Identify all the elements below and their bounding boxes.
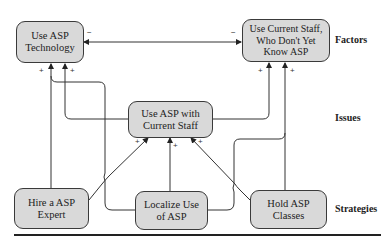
node-label-line: Use ASP with [141, 108, 200, 120]
node-label-line: Use ASP [25, 30, 74, 42]
polarity-plus: + [173, 141, 178, 150]
polarity-minus: − [231, 28, 236, 37]
polarity-plus: + [135, 137, 140, 146]
node-label-line: Technology [25, 42, 74, 54]
polarity-plus: + [258, 66, 263, 75]
tier-label-issues: Issues [335, 112, 361, 123]
node-label-line: Who Don't Yet [250, 35, 323, 47]
edge-hire-to-issue [89, 138, 148, 200]
influence-diagram: Use ASP Technology Use Current Staff, Wh… [0, 0, 391, 246]
tier-label-strategies: Strategies [335, 203, 377, 214]
node-hold-asp-classes: Hold ASP Classes [250, 190, 327, 229]
polarity-plus: + [290, 66, 295, 75]
node-label-line: Current Staff [141, 120, 200, 132]
tier-label-factors: Factors [335, 34, 367, 45]
polarity-plus: + [39, 66, 44, 75]
node-use-current-staff: Use Current Staff, Who Don't Yet Know AS… [242, 19, 330, 62]
node-use-asp-technology: Use ASP Technology [16, 21, 84, 63]
node-label-line: Hold ASP [267, 198, 309, 210]
node-label-line: Hire a ASP [28, 197, 75, 209]
node-label-line: Expert [28, 209, 75, 221]
node-label-line: Know ASP [250, 46, 323, 58]
polarity-plus: + [70, 66, 75, 75]
node-label-line: Classes [267, 210, 309, 222]
node-label-line: of ASP [144, 211, 199, 223]
bottom-rule [14, 234, 381, 236]
node-label-line: Use Current Staff, [250, 23, 323, 35]
node-use-asp-with-current-staff: Use ASP with Current Staff [128, 101, 213, 138]
node-localize-use-of-asp: Localize Use of ASP [135, 191, 208, 230]
node-hire-asp-expert: Hire a ASP Expert [14, 188, 89, 229]
polarity-minus: − [87, 28, 92, 37]
polarity-plus: + [198, 137, 203, 146]
node-label-line: Localize Use [144, 199, 199, 211]
